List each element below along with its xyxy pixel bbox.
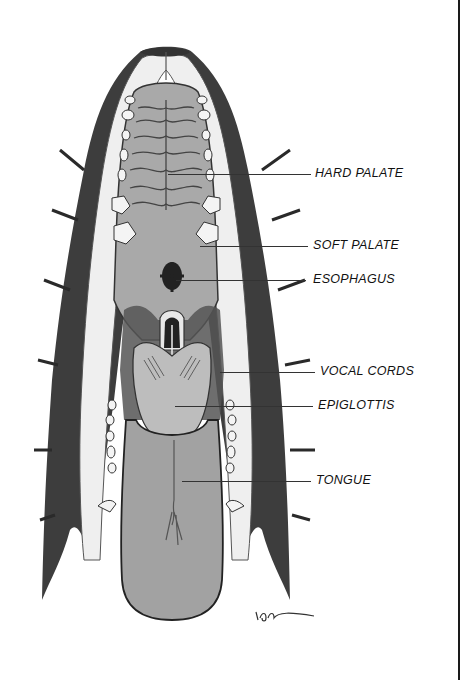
label-esophagus: ESOPHAGUS <box>313 272 395 286</box>
leader-epiglottis <box>175 406 313 407</box>
label-soft-palate: SOFT PALATE <box>313 238 399 252</box>
epiglottis <box>133 343 211 440</box>
artist-signature <box>256 612 314 621</box>
tongue <box>121 420 223 620</box>
leader-tongue <box>182 481 311 482</box>
label-epiglottis: EPIGLOTTIS <box>318 398 395 412</box>
label-hard-palate: HARD PALATE <box>315 166 403 180</box>
leader-hard-palate <box>168 174 311 175</box>
leader-vocal-cords <box>220 372 315 373</box>
leader-esophagus <box>176 280 306 281</box>
label-vocal-cords: VOCAL CORDS <box>320 364 414 378</box>
leader-soft-palate <box>200 246 308 247</box>
label-tongue: TONGUE <box>316 473 371 487</box>
anatomy-illustration <box>0 0 463 680</box>
